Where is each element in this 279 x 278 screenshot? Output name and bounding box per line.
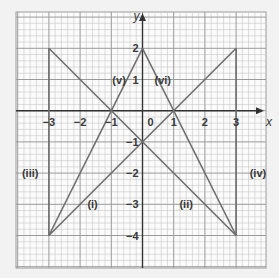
y-tick-label: −4 [126,230,139,242]
y-tick-label: −3 [126,198,139,210]
y-tick-label: −1 [126,136,139,148]
x-tick-label: −1 [105,116,118,128]
line-label: (v) [112,74,126,86]
y-tick-label: 1 [132,74,138,86]
line-label: (i) [87,198,98,210]
y-axis-label: y [133,9,141,23]
x-tick-label: 2 [202,116,208,128]
y-tick-label: −2 [126,167,139,179]
x-tick-label: 0 [147,116,153,128]
x-axis-label: x [265,115,273,129]
line-label: (iii) [22,167,39,179]
x-tick-label: 1 [171,116,177,128]
x-tick-label: −2 [74,116,87,128]
x-tick-label: 3 [233,116,239,128]
line-label: (iv) [250,167,267,179]
line-label: (ii) [179,198,193,210]
line-label: (vi) [155,74,172,86]
coordinate-graph: −3−2−1012321−1−2−3−4xy (i)(ii)(iii)(iv)(… [0,0,279,278]
y-tick-label: 2 [132,42,138,54]
x-tick-label: −3 [43,116,56,128]
